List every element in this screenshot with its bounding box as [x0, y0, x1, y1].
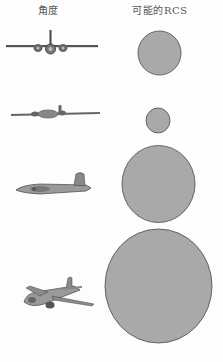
rcs-circle-4: [105, 229, 212, 343]
rcs-circle-2: [146, 108, 170, 133]
aircraft-oblique-view-icon: [24, 277, 94, 309]
aircraft-side-view-icon: [16, 173, 91, 195]
rcs-circle-1: [138, 31, 181, 75]
aircraft-banked-view-icon: [11, 105, 100, 118]
rcs-diagram: [0, 0, 223, 362]
rcs-circle-3: [122, 146, 195, 223]
aircraft-front-view-icon: [6, 30, 98, 54]
